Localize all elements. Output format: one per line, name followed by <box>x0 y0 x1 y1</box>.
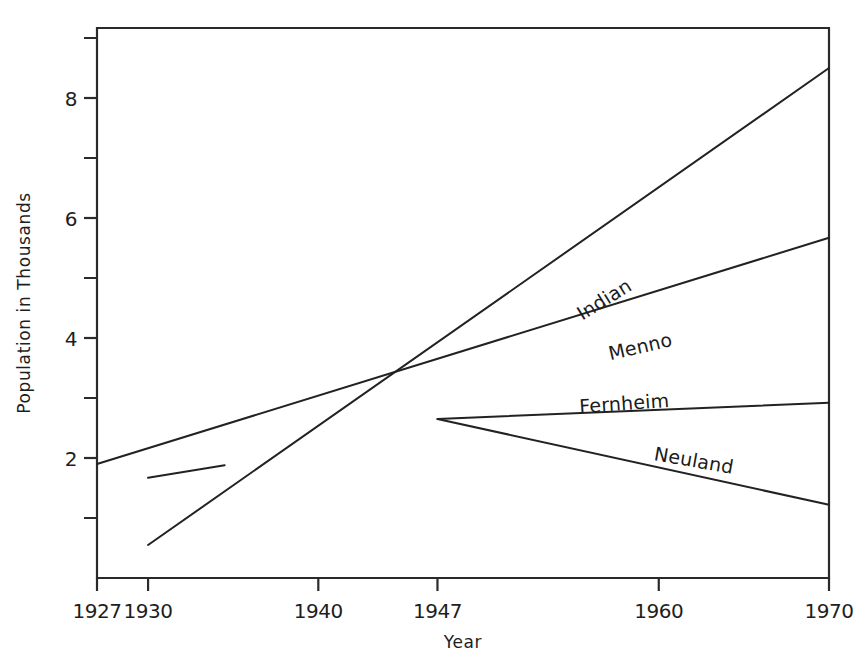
y-tick-label: 4 <box>65 327 77 351</box>
x-tick-label: 1927 <box>73 599 122 623</box>
y-axis-title: Population in Thousands <box>14 192 34 413</box>
y-tick-label: 6 <box>65 207 77 231</box>
x-tick-label: 1970 <box>805 599 854 623</box>
population-line-chart: 2468 192719301940194719601970 IndianMenn… <box>0 0 866 661</box>
y-axis-tick-labels: 2468 <box>65 87 77 471</box>
x-axis-title: Year <box>443 632 482 652</box>
axis-frame-lines <box>97 28 829 578</box>
y-tick-label: 2 <box>65 447 77 471</box>
series-label-neuland: Neuland <box>653 442 736 478</box>
series-line-menno <box>97 238 829 464</box>
series-label-indian: Indian <box>573 274 635 324</box>
y-axis-minor-ticks <box>84 38 97 518</box>
x-tick-label: 1930 <box>124 599 173 623</box>
series-line-fernheim-early <box>148 465 225 478</box>
series-labels-group: IndianMennoFernheimNeuland <box>573 274 736 478</box>
x-axis-tick-labels: 192719301940194719601970 <box>73 599 854 623</box>
plot-frame <box>97 28 829 578</box>
x-axis-ticks <box>97 578 829 591</box>
series-line-neuland <box>437 419 829 505</box>
series-label-menno: Menno <box>606 328 674 364</box>
series-label-fernheim: Fernheim <box>578 389 670 417</box>
x-tick-label: 1947 <box>413 599 462 623</box>
x-tick-label: 1940 <box>294 599 343 623</box>
x-tick-label: 1960 <box>634 599 683 623</box>
y-tick-label: 8 <box>65 87 77 111</box>
chart-canvas: 2468 192719301940194719601970 IndianMenn… <box>0 0 866 661</box>
